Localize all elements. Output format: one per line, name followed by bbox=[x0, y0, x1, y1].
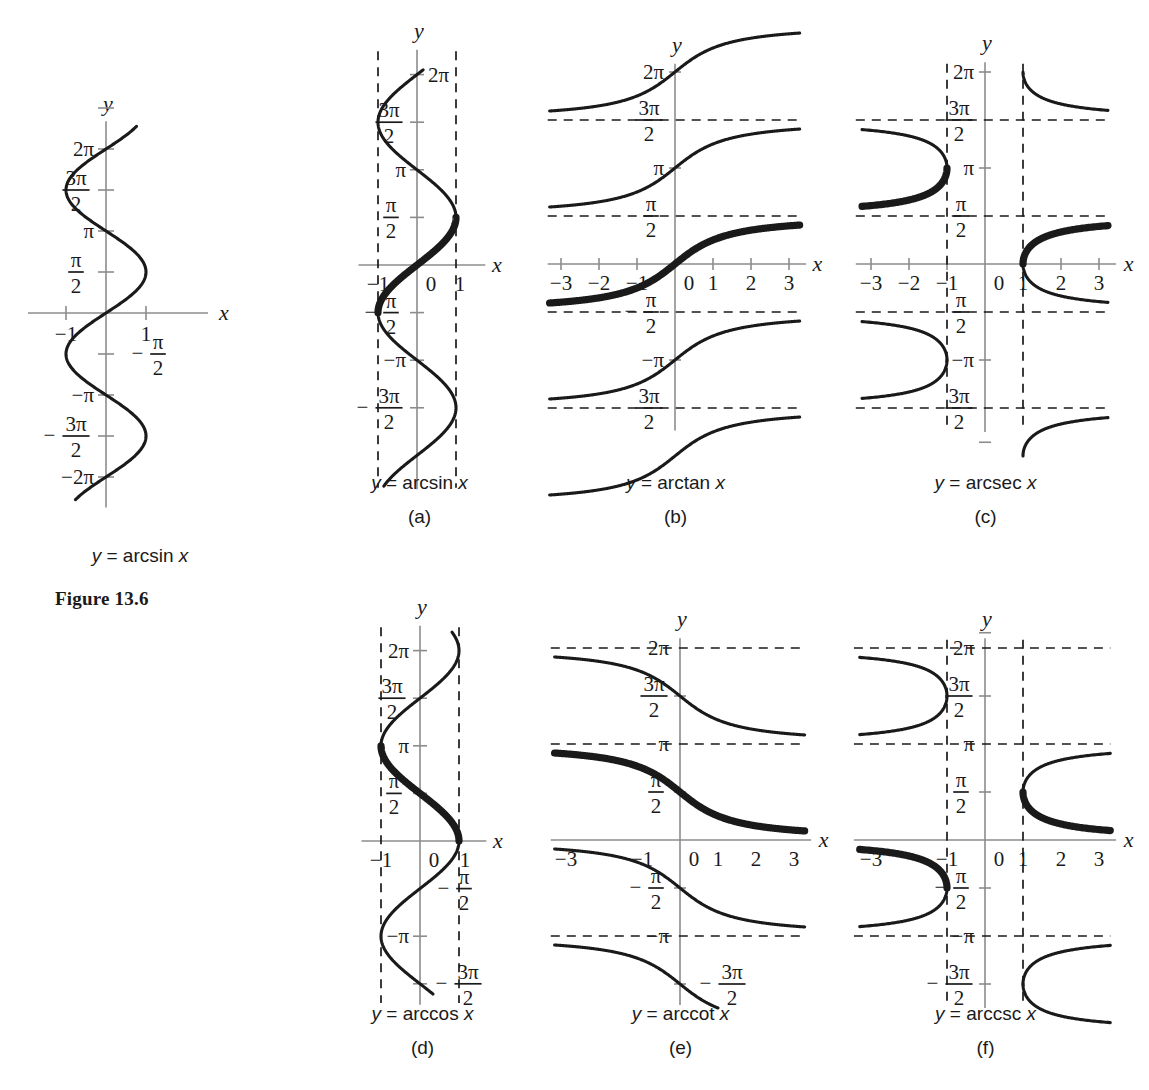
x-tick-label-0: 0 bbox=[994, 847, 1005, 871]
y-tick-label-pi-2: π2 bbox=[953, 768, 969, 818]
y-tick-label-3pi-2: 3π2 bbox=[945, 672, 972, 722]
svg-text:2: 2 bbox=[954, 698, 965, 722]
panel-f-caption: y = arccsc x bbox=[898, 1003, 1073, 1025]
arccsc-branch-c bbox=[860, 657, 947, 696]
x-axis-name: x bbox=[1123, 827, 1134, 852]
arccsc-principal-right bbox=[1023, 792, 1110, 831]
graph-canvas: xy−3−112302ππ−π3π2π2π2−3π2− bbox=[0, 0, 1149, 1090]
svg-text:3π: 3π bbox=[948, 672, 970, 696]
svg-text:π: π bbox=[956, 768, 967, 792]
y-axis-name: y bbox=[980, 606, 992, 631]
svg-text:3π: 3π bbox=[948, 960, 970, 984]
svg-text:π: π bbox=[956, 864, 967, 888]
y-tick-label-2pi: 2π bbox=[953, 636, 975, 660]
x-tick-label: 3 bbox=[1094, 847, 1105, 871]
x-tick-label: 2 bbox=[1056, 847, 1067, 871]
svg-text:2: 2 bbox=[956, 890, 967, 914]
arccsc-branch-a bbox=[1023, 753, 1110, 792]
panel-f-letter: (f) bbox=[898, 1037, 1073, 1059]
svg-text:2: 2 bbox=[956, 794, 967, 818]
y-tick-label-pi: π bbox=[963, 732, 974, 756]
arccsc-branch-b bbox=[860, 696, 947, 735]
arccsc-branch-e bbox=[1023, 945, 1110, 984]
svg-text:−: − bbox=[927, 971, 939, 995]
y-tick-label-neg-pi: −π bbox=[952, 924, 975, 948]
